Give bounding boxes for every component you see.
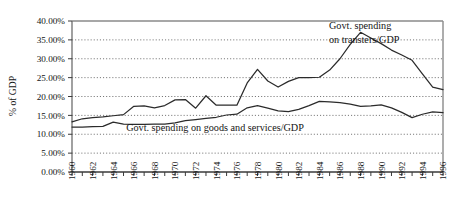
x-tick-label-1980: 1980 <box>274 161 284 180</box>
x-tick-label-1994: 1994 <box>418 161 428 180</box>
chart-background <box>0 0 460 220</box>
x-tick-label-1996: 1996 <box>438 161 448 180</box>
x-tick-label-1964: 1964 <box>109 161 119 180</box>
x-tick-label-1974: 1974 <box>212 161 222 180</box>
y-tick-label-30: 30.00% <box>37 54 66 64</box>
x-tick-label-1984: 1984 <box>315 161 325 180</box>
x-tick-label-1986: 1986 <box>335 161 345 180</box>
x-tick-label-1992: 1992 <box>397 161 407 180</box>
y-tick-label-40: 40.00% <box>37 16 66 26</box>
y-tick-labels-group: 0.00%5.00%10.00%15.00%20.00%25.00%30.00%… <box>37 16 66 177</box>
transfers-annotation-line1: Govt. spending <box>329 20 391 31</box>
goods-services-annotation: Govt. spending on goods and services/GDP <box>126 122 304 133</box>
x-tick-label-1960: 1960 <box>67 161 77 180</box>
y-tick-label-5: 5.00% <box>41 148 65 158</box>
y-tick-label-10: 10.00% <box>37 129 66 139</box>
x-tick-label-1972: 1972 <box>191 161 201 180</box>
transfers-annotation-line2: on transters/GDP <box>329 34 400 45</box>
y-tick-label-0: 0.00% <box>41 167 65 177</box>
gdp-spending-line-chart: 0.00%5.00%10.00%15.00%20.00%25.00%30.00%… <box>0 0 460 220</box>
x-tick-label-1976: 1976 <box>232 161 242 180</box>
y-tick-label-25: 25.00% <box>37 73 66 83</box>
x-tick-label-1966: 1966 <box>129 161 139 180</box>
x-tick-label-1968: 1968 <box>150 161 160 180</box>
x-tick-label-1982: 1982 <box>294 161 304 180</box>
x-tick-label-1988: 1988 <box>356 161 366 180</box>
x-tick-label-1990: 1990 <box>377 161 387 180</box>
y-tick-label-15: 15.00% <box>37 111 66 121</box>
x-tick-label-1970: 1970 <box>170 161 180 180</box>
chart-container: 0.00%5.00%10.00%15.00%20.00%25.00%30.00%… <box>0 0 460 220</box>
x-tick-label-1978: 1978 <box>253 161 263 180</box>
y-axis-title: % of GDP <box>7 76 18 116</box>
y-tick-label-35: 35.00% <box>37 35 66 45</box>
y-tick-label-20: 20.00% <box>37 92 66 102</box>
x-tick-label-1962: 1962 <box>88 161 98 180</box>
